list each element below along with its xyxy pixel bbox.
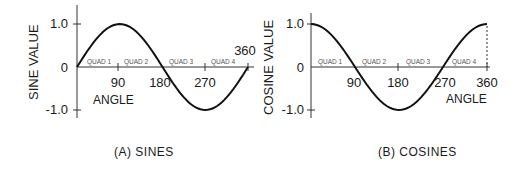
cosine-ytick-zero: 0 — [297, 60, 304, 75]
cosine-quad-1: QUAD 1 — [318, 58, 343, 66]
sine-xtick-90: 90 — [111, 75, 125, 90]
sine-caption: (A) SINES — [114, 145, 174, 159]
cosine-quad-2: QUAD 2 — [362, 58, 387, 66]
sine-quad-3: QUAD 3 — [169, 58, 194, 66]
sine-xlabel: ANGLE — [93, 93, 134, 107]
cosine-quad-3: QUAD 3 — [406, 58, 431, 66]
cosine-caption: (B) COSINES — [378, 145, 457, 159]
sine-chart: SINE VALUE 1.0 0 -1.0 90 180 270 360 ANG… — [26, 5, 256, 118]
sine-xtick-270: 270 — [194, 75, 216, 90]
cosine-xtick-270: 270 — [434, 75, 456, 90]
cosine-xtick-360: 360 — [476, 75, 498, 90]
cosine-quad-4: QUAD 4 — [452, 58, 477, 66]
cosine-xlabel: ANGLE — [446, 92, 487, 106]
cosine-xtick-180: 180 — [387, 75, 409, 90]
cosine-ylabel: COSINE VALUE — [261, 20, 276, 115]
cosine-ytick-top: 1.0 — [286, 16, 304, 31]
sine-ytick-zero: 0 — [61, 60, 68, 75]
sine-quad-2: QUAD 2 — [124, 58, 149, 66]
sine-ytick-bottom: -1.0 — [46, 102, 68, 117]
sine-xtick-180: 180 — [149, 75, 171, 90]
sine-ylabel: SINE VALUE — [26, 24, 41, 100]
cosine-ytick-bottom: -1.0 — [282, 102, 304, 117]
cosine-chart: COSINE VALUE 1.0 0 -1.0 90 180 270 360 A… — [261, 13, 498, 118]
sine-ytick-top: 1.0 — [50, 16, 68, 31]
cosine-xtick-90: 90 — [347, 75, 361, 90]
sine-quad-1: QUAD 1 — [87, 58, 112, 66]
sine-xtick-360: 360 — [234, 43, 256, 58]
sine-quad-4: QUAD 4 — [211, 58, 236, 66]
